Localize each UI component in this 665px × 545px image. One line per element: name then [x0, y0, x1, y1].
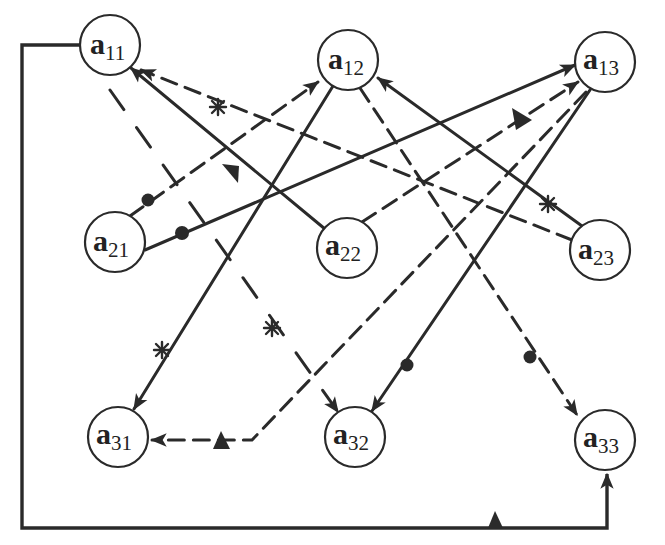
node-a22: a22	[317, 218, 377, 278]
star-marker	[210, 99, 226, 115]
graph-diagram: a11 a12 a13 a21 a22 a23 a31 a32 a33	[0, 0, 665, 545]
triangle-marker	[222, 164, 239, 183]
node-a23: a23	[570, 220, 630, 280]
triangle-marker	[512, 108, 532, 130]
dot-marker	[401, 359, 414, 372]
dot-marker	[175, 226, 189, 240]
node-a33: a33	[575, 410, 635, 470]
node-a21: a21	[85, 212, 145, 272]
node-a12: a12	[318, 30, 378, 90]
star-marker	[264, 320, 280, 336]
dot-marker	[142, 194, 155, 207]
node-a31: a31	[88, 407, 148, 467]
triangle-marker	[488, 511, 503, 528]
star-marker	[154, 342, 170, 358]
edge-a13-a31	[152, 92, 586, 449]
node-a32: a32	[325, 407, 385, 467]
node-a13: a13	[575, 32, 635, 92]
node-a11: a11	[80, 15, 140, 75]
dot-marker	[524, 351, 537, 364]
star-marker	[540, 196, 556, 212]
